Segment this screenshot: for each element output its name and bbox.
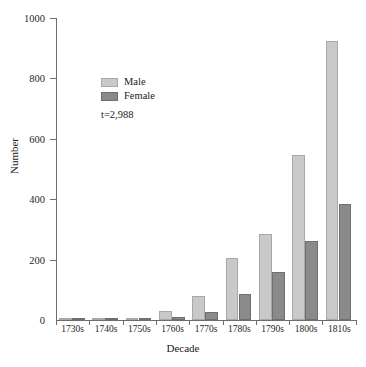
x-tick-label-1730s: 1730s <box>61 324 84 334</box>
bar-1750s-female <box>139 318 152 320</box>
x-tick-label-1770s: 1770s <box>195 324 218 334</box>
x-tick-label-1740s: 1740s <box>95 324 118 334</box>
bar-1810s-male <box>326 41 339 320</box>
y-tick-label-1000: 1000 <box>24 13 45 24</box>
y-tick-label-600: 600 <box>29 133 45 144</box>
bar-1780s-male <box>226 258 239 320</box>
plot-area <box>56 18 356 320</box>
bar-1810s-female <box>339 204 352 320</box>
x-tick-label-1810s: 1810s <box>328 324 351 334</box>
legend-swatch-female-icon <box>101 92 118 101</box>
legend-swatch-male-icon <box>101 78 118 87</box>
legend-label-female: Female <box>124 90 155 102</box>
bar-1780s-female <box>239 294 252 320</box>
x-axis-line <box>56 320 356 321</box>
x-tick-label-1800s: 1800s <box>295 324 318 334</box>
bar-1760s-male <box>159 311 172 320</box>
bar-1790s-female <box>272 272 285 320</box>
bar-chart-figure: 0 200 400 600 800 1000 1730s1740s1750s17… <box>0 0 366 367</box>
bar-1800s-male <box>292 155 305 320</box>
y-tick-label-800: 800 <box>29 73 45 84</box>
legend-annotation-total: t=2,988 <box>101 109 155 120</box>
bar-1800s-female <box>305 241 318 320</box>
bar-1750s-male <box>126 318 139 320</box>
x-tick-label-1760s: 1760s <box>161 324 184 334</box>
x-axis-tick-labels: 1730s1740s1750s1760s1770s1780s1790s1800s… <box>0 324 366 340</box>
bar-1740s-male <box>92 318 105 320</box>
bar-1770s-female <box>205 312 218 320</box>
x-tick-label-1750s: 1750s <box>128 324 151 334</box>
bar-1730s-male <box>59 318 72 320</box>
legend-entry-male: Male <box>101 76 155 88</box>
x-tick-label-1780s: 1780s <box>228 324 251 334</box>
bar-1760s-female <box>172 317 185 320</box>
bar-1740s-female <box>105 318 118 320</box>
y-axis-title: Number <box>8 96 20 216</box>
x-tick-label-1790s: 1790s <box>261 324 284 334</box>
y-tick-label-200: 200 <box>29 254 45 265</box>
x-axis-title: Decade <box>0 342 366 354</box>
legend-entry-female: Female <box>101 90 155 102</box>
bar-1730s-female <box>72 318 85 320</box>
bar-1790s-male <box>259 234 272 320</box>
y-tick-label-400: 400 <box>29 194 45 205</box>
bar-1770s-male <box>192 296 205 320</box>
chart-legend: Male Female t=2,988 <box>101 76 155 120</box>
legend-label-male: Male <box>124 76 146 88</box>
